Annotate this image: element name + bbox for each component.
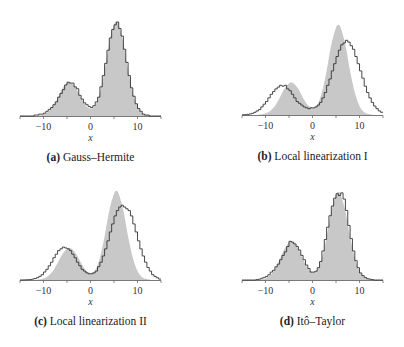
panel-d [242, 192, 383, 283]
x-axis-label: x [310, 131, 314, 142]
x-tick-label: 10 [133, 121, 143, 132]
density-area [20, 22, 161, 116]
figure: −10010x(a) Gauss–Hermite−10010x(b) Local… [0, 0, 404, 347]
panel-caption: (b) Local linearization I [257, 150, 367, 162]
x-axis-label: x [310, 296, 314, 307]
density-area [242, 25, 383, 115]
x-tick-label: 10 [133, 285, 143, 296]
x-tick-label: −10 [36, 121, 52, 132]
caption-letter: (b) [257, 150, 271, 162]
panel-caption: (a) Gauss–Hermite [47, 151, 135, 163]
x-axis-label: x [88, 296, 92, 307]
caption-letter: (a) [47, 151, 60, 163]
x-tick-label: 10 [355, 285, 365, 296]
x-tick-label: 0 [310, 285, 315, 296]
histogram-line [20, 205, 161, 280]
x-tick-label: −10 [36, 285, 52, 296]
panel-a [20, 22, 161, 119]
panel-caption: (c) Local linearization II [34, 315, 147, 327]
panel-c [20, 191, 161, 283]
x-tick-label: −10 [258, 285, 274, 296]
density-area [20, 191, 161, 280]
x-tick-label: 0 [88, 121, 93, 132]
panel-b [242, 25, 383, 118]
histogram-line [242, 40, 383, 115]
x-tick-label: 10 [355, 120, 365, 131]
histogram-line [20, 22, 161, 116]
density-area [242, 192, 383, 280]
x-axis-label: x [88, 132, 92, 143]
caption-letter: (d) [280, 315, 294, 327]
plots-canvas [0, 0, 404, 347]
histogram-line [242, 193, 383, 280]
panel-caption: (d) Itô–Taylor [280, 315, 345, 327]
x-tick-label: 0 [310, 120, 315, 131]
x-tick-label: 0 [88, 285, 93, 296]
caption-letter: (c) [34, 315, 47, 327]
x-tick-label: −10 [258, 120, 274, 131]
